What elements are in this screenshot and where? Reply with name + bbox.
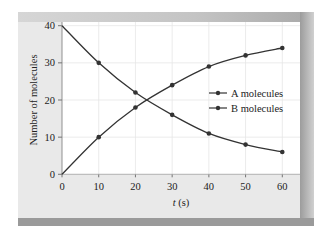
- plot-area: [62, 22, 300, 175]
- data-point-marker: [243, 142, 248, 147]
- x-tick-label: 50: [240, 181, 251, 192]
- data-point-marker: [170, 83, 175, 88]
- y-tick-label: 40: [45, 20, 56, 31]
- x-tick-label: 30: [167, 181, 178, 192]
- y-tick-label: 10: [45, 132, 56, 143]
- x-axis-title-unit: (s): [176, 197, 190, 209]
- y-tick-label: 0: [50, 169, 55, 180]
- y-axis-title: Number of molecules: [28, 55, 39, 146]
- data-point-marker: [133, 105, 138, 110]
- legend-label-a: A molecules: [231, 88, 283, 99]
- data-point-marker: [207, 64, 212, 69]
- y-tick-label: 30: [45, 57, 56, 68]
- data-point-marker: [96, 135, 101, 140]
- data-point-marker: [280, 150, 285, 155]
- x-tick-label: 10: [93, 181, 104, 192]
- data-point-marker: [207, 131, 212, 136]
- x-axis-title: t (s): [173, 197, 190, 209]
- data-point-marker: [170, 113, 175, 118]
- data-point-marker: [133, 90, 138, 95]
- legend-marker-icon: [216, 91, 220, 95]
- line-chart: 0102030405060010203040 A molecules B mol…: [0, 0, 329, 238]
- data-point-marker: [280, 46, 285, 51]
- x-tick-label: 20: [130, 181, 141, 192]
- legend-label-b: B molecules: [231, 103, 283, 114]
- legend-marker-icon: [216, 106, 220, 110]
- y-tick-label: 20: [45, 95, 56, 106]
- x-tick-label: 40: [204, 181, 215, 192]
- data-point-marker: [243, 53, 248, 58]
- x-tick-label: 0: [59, 181, 64, 192]
- data-point-marker: [96, 61, 101, 66]
- x-tick-label: 60: [277, 181, 288, 192]
